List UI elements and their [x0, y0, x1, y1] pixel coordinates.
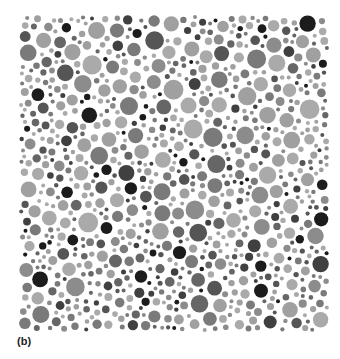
disc	[90, 147, 108, 165]
disc	[55, 281, 61, 287]
disc	[294, 177, 298, 181]
disc	[54, 86, 61, 93]
disc	[145, 229, 149, 233]
disc	[319, 160, 323, 164]
disc	[167, 61, 171, 65]
disc	[106, 99, 110, 103]
disc	[74, 247, 78, 251]
disc	[147, 137, 151, 141]
disc	[81, 272, 86, 277]
disc	[204, 119, 209, 124]
disc	[316, 300, 324, 308]
disc	[252, 187, 269, 204]
disc	[94, 309, 100, 315]
disc	[285, 192, 289, 196]
disc	[66, 306, 71, 311]
disc	[252, 118, 258, 124]
disc	[230, 142, 236, 148]
disc	[206, 210, 214, 218]
disc	[276, 97, 285, 106]
disc	[274, 201, 280, 207]
disc	[159, 133, 164, 138]
disc	[39, 147, 46, 154]
disc	[201, 157, 205, 161]
disc	[120, 325, 125, 330]
disc	[143, 249, 148, 254]
disc	[174, 262, 178, 266]
disc	[139, 222, 144, 227]
disc	[311, 199, 315, 203]
disc	[291, 215, 299, 223]
disc	[286, 279, 297, 290]
disc	[230, 94, 235, 99]
disc	[34, 15, 41, 22]
disc	[123, 138, 127, 142]
disc	[98, 98, 103, 103]
disc	[293, 185, 300, 192]
disc	[229, 16, 235, 22]
disc	[78, 213, 98, 233]
disc	[195, 34, 201, 40]
disc	[271, 213, 279, 221]
disc	[281, 18, 288, 25]
disc	[22, 201, 29, 208]
disc	[309, 79, 313, 83]
disc	[262, 299, 266, 303]
disc	[39, 242, 46, 249]
disc	[270, 185, 283, 198]
disc	[20, 114, 24, 118]
disc	[230, 64, 236, 70]
disc	[313, 126, 319, 132]
disc	[253, 105, 258, 110]
disc	[105, 109, 110, 114]
disc	[189, 244, 197, 252]
disc	[128, 320, 138, 330]
disc	[213, 241, 221, 249]
disc	[170, 180, 177, 187]
disc	[230, 299, 234, 303]
disc	[280, 75, 285, 80]
disc	[132, 223, 136, 227]
disc	[48, 267, 52, 271]
disc	[242, 109, 247, 114]
disc	[253, 70, 258, 75]
disc	[94, 172, 100, 178]
disc	[201, 75, 208, 82]
disc	[246, 311, 251, 316]
disc	[108, 179, 114, 185]
disc	[40, 136, 45, 141]
disc	[83, 306, 90, 313]
disc	[306, 212, 310, 216]
disc	[277, 233, 283, 239]
disc	[205, 241, 209, 245]
disc	[180, 302, 188, 310]
disc	[84, 299, 89, 304]
disc	[116, 131, 120, 135]
disc	[319, 60, 327, 68]
disc	[73, 135, 77, 139]
disc	[219, 91, 223, 95]
disc	[143, 55, 147, 59]
disc	[51, 204, 55, 208]
disc	[200, 267, 205, 272]
disc	[208, 196, 220, 208]
disc	[178, 130, 183, 135]
disc	[199, 19, 206, 26]
disc	[220, 193, 224, 197]
disc	[94, 234, 98, 238]
disc	[283, 132, 300, 149]
disc	[207, 281, 222, 296]
disc	[164, 80, 184, 100]
disc	[20, 137, 24, 141]
disc	[283, 199, 298, 214]
disc	[162, 46, 175, 59]
disc	[235, 263, 239, 267]
disc	[283, 319, 287, 323]
disc	[303, 313, 307, 317]
disc	[104, 282, 113, 291]
disc	[244, 44, 248, 48]
disc	[174, 300, 179, 305]
disc	[36, 33, 51, 48]
disc	[74, 183, 80, 189]
panel-label: (b)	[17, 335, 31, 347]
